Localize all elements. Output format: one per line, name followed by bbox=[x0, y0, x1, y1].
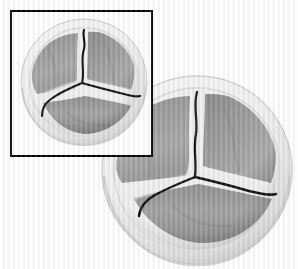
scanline-overlay bbox=[0, 0, 298, 269]
figure-canvas bbox=[0, 0, 298, 269]
illustration-svg bbox=[0, 0, 298, 269]
